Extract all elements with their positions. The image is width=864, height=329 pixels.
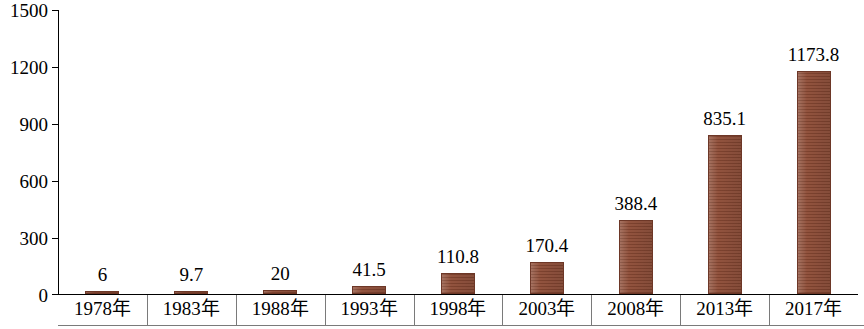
bar-slot: 6 [58, 10, 147, 294]
y-tick-label: 1500 [10, 1, 48, 20]
y-tick-mark [52, 294, 58, 295]
bar [530, 262, 564, 294]
y-tick-label: 300 [20, 229, 49, 248]
y-axis-labels: 030060090012001500 [0, 10, 48, 295]
y-tick-mark [52, 67, 58, 68]
bar [174, 291, 208, 294]
x-tick-label: 2013年 [680, 299, 769, 318]
bar-slot: 388.4 [591, 10, 680, 294]
x-label-separator [147, 295, 148, 325]
bar [263, 290, 297, 294]
plot-area: 69.72041.5110.8170.4388.4835.11173.8 [58, 10, 858, 295]
x-label-separator [680, 295, 681, 325]
bar [352, 286, 386, 294]
bar-value-label: 835.1 [703, 109, 746, 128]
bar [797, 71, 831, 294]
bar-value-label: 6 [98, 265, 108, 284]
y-tick-mark [52, 10, 58, 11]
bar [619, 220, 653, 294]
x-label-separator [236, 295, 237, 325]
y-tick-label: 0 [39, 286, 49, 305]
y-tick-mark [52, 124, 58, 125]
x-tick-label: 2017年 [769, 299, 858, 318]
bar-value-label: 170.4 [526, 236, 569, 255]
bar [85, 291, 119, 294]
y-tick-mark [52, 238, 58, 239]
x-tick-label: 1983年 [147, 299, 236, 318]
x-label-separator [769, 295, 770, 325]
y-tick-mark [52, 181, 58, 182]
bar-slot: 110.8 [414, 10, 503, 294]
axis-bottom-rule [58, 325, 864, 326]
x-tick-label: 1998年 [414, 299, 503, 318]
y-tick-label: 1200 [10, 58, 48, 77]
bar-slot: 9.7 [147, 10, 236, 294]
bar [708, 135, 742, 294]
bar-chart: 030060090012001500 69.72041.5110.8170.43… [0, 0, 864, 329]
bar-slot: 41.5 [325, 10, 414, 294]
x-label-separator [591, 295, 592, 325]
bar-value-label: 20 [271, 264, 290, 283]
bar [441, 273, 475, 294]
bar-slot: 20 [236, 10, 325, 294]
x-tick-label: 2003年 [502, 299, 591, 318]
x-label-separator [325, 295, 326, 325]
x-tick-label: 2008年 [591, 299, 680, 318]
x-axis-labels: 1978年1983年1988年1993年1998年2003年2008年2013年… [58, 299, 858, 327]
x-tick-label: 1993年 [325, 299, 414, 318]
bar-slot: 835.1 [680, 10, 769, 294]
x-axis-line [58, 294, 858, 295]
bar-value-label: 110.8 [437, 247, 479, 266]
x-tick-label: 1988年 [236, 299, 325, 318]
x-label-separator [502, 295, 503, 325]
bar-slot: 170.4 [502, 10, 591, 294]
x-tick-label: 1978年 [58, 299, 147, 318]
bar-slot: 1173.8 [769, 10, 858, 294]
bar-value-label: 1173.8 [788, 45, 840, 64]
bar-value-label: 9.7 [179, 265, 203, 284]
y-tick-label: 600 [20, 172, 49, 191]
bar-series: 69.72041.5110.8170.4388.4835.11173.8 [58, 10, 858, 294]
y-tick-label: 900 [20, 115, 49, 134]
x-label-separator [414, 295, 415, 325]
bar-value-label: 41.5 [352, 260, 385, 279]
bar-value-label: 388.4 [614, 194, 657, 213]
